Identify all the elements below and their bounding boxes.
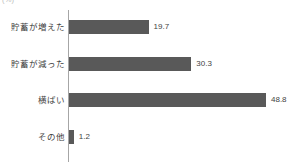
unit-caption: (%) [2,0,14,4]
bar-fill[interactable] [69,57,191,71]
bar-fill[interactable] [69,93,266,107]
bar-track [69,130,74,144]
bar-chart: (%) 貯蓄が増えた 19.7 貯蓄が減った 30.3 横ばい 48.8 その他… [0,0,305,168]
bar-value-label: 19.7 [154,17,170,37]
bar-row: 貯蓄が増えた 19.7 [0,17,305,37]
category-label: 貯蓄が増えた [2,17,68,37]
category-label: その他 [2,127,68,147]
bar-fill[interactable] [69,20,149,34]
bar-track [69,93,266,107]
bar-value-label: 48.8 [271,90,287,110]
bar-row: その他 1.2 [0,127,305,147]
bar-value-label: 30.3 [196,54,212,74]
category-label: 横ばい [2,90,68,110]
bar-row: 横ばい 48.8 [0,90,305,110]
bar-row: 貯蓄が減った 30.3 [0,54,305,74]
bar-track [69,57,191,71]
category-label: 貯蓄が減った [2,54,68,74]
bar-fill[interactable] [69,130,74,144]
bar-track [69,20,149,34]
bar-value-label: 1.2 [79,127,90,147]
